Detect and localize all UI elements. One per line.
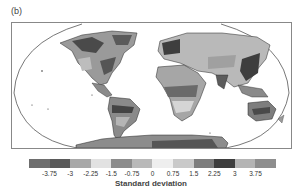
colorbar-tick: -2.25 [83, 170, 98, 177]
colorbar-bin [194, 159, 215, 168]
colorbar-bin [152, 159, 173, 168]
colorbar-tick: -0.75 [125, 170, 140, 177]
colorbar [29, 159, 276, 168]
colorbar-bin [111, 159, 132, 168]
world-map [11, 22, 292, 149]
colorbar-bin [29, 159, 50, 168]
panel-label: (b) [11, 6, 22, 16]
colorbar-bin [91, 159, 112, 168]
colorbar-bin [50, 159, 71, 168]
colorbar-ticks: -3.75 -3 -2.25 -1.5 -0.75 0 0.75 1.5 2.2… [29, 170, 276, 179]
colorbar-label: Standard deviation [0, 179, 302, 188]
colorbar-tick: -1.5 [106, 170, 117, 177]
colorbar-tick: -3.75 [42, 170, 57, 177]
colorbar-tick: 3 [233, 170, 237, 177]
colorbar-bin [214, 159, 235, 168]
colorbar-tick: 0 [151, 170, 155, 177]
colorbar-tick: 1.5 [189, 170, 198, 177]
colorbar-tick: 3.75 [249, 170, 262, 177]
world-map-svg [12, 23, 291, 148]
colorbar-bin [132, 159, 153, 168]
colorbar-bin [173, 159, 194, 168]
colorbar-bin [235, 159, 256, 168]
colorbar-tick: -3 [67, 170, 73, 177]
colorbar-tick: 2.25 [208, 170, 221, 177]
colorbar-tick: 0.75 [167, 170, 180, 177]
colorbar-bin [255, 159, 276, 168]
colorbar-bin [70, 159, 91, 168]
